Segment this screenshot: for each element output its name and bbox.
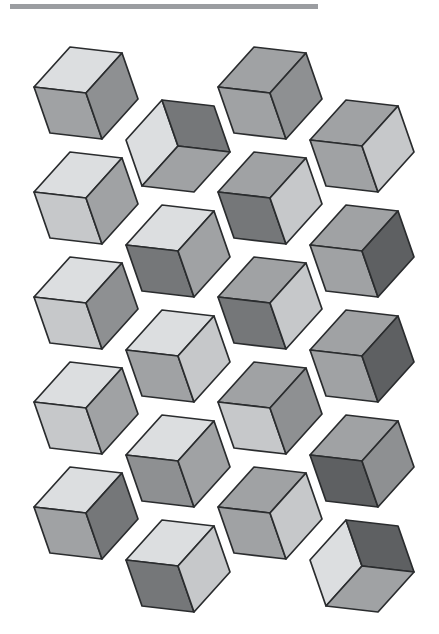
cube-c0r2: [34, 257, 138, 349]
cube-c2r2: [218, 257, 322, 349]
cube-c3r0: [310, 100, 414, 192]
cube-c2r1: [218, 152, 322, 244]
cube-pattern-svg: [0, 0, 439, 634]
cube-c2r4: [218, 467, 322, 559]
pattern-canvas: [0, 0, 439, 634]
cube-c0r1: [34, 152, 138, 244]
cube-c3r4: [310, 520, 414, 612]
cube-c1r3: [126, 415, 230, 507]
cube-c0r0: [34, 47, 138, 139]
cube-c1r2: [126, 310, 230, 402]
cube-c0r3: [34, 362, 138, 454]
cube-c2r3: [218, 362, 322, 454]
cube-c1r1: [126, 205, 230, 297]
cube-c0r4: [34, 467, 138, 559]
cube-c3r3: [310, 415, 414, 507]
cube-c1r0: [126, 100, 230, 192]
cube-c1r4: [126, 520, 230, 612]
cube-c3r1: [310, 205, 414, 297]
cube-c2r0: [218, 47, 322, 139]
cube-c3r2: [310, 310, 414, 402]
